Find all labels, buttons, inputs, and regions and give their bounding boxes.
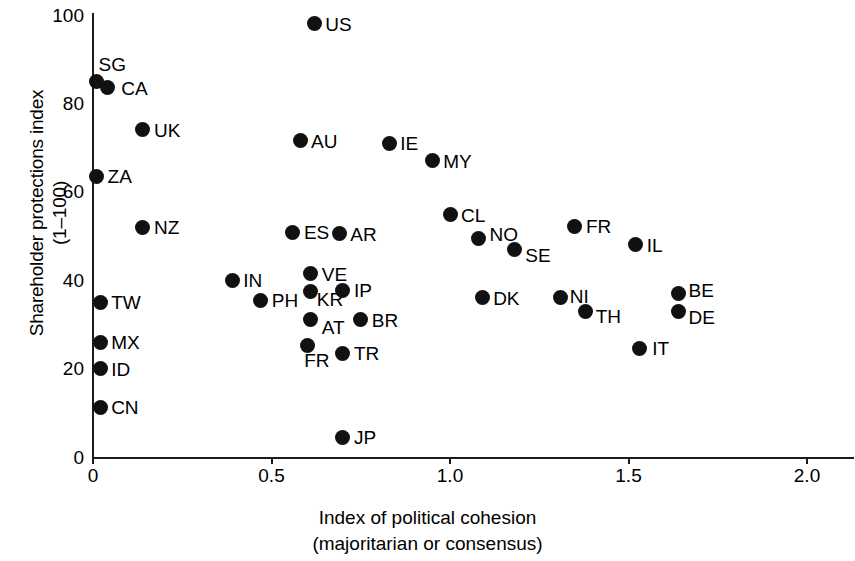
data-point-CL (443, 207, 458, 222)
data-point-TW (93, 295, 108, 310)
data-point-label-NZ: NZ (154, 218, 179, 237)
data-point-CN (93, 400, 108, 415)
data-point-label-FR: FR (586, 217, 611, 236)
y-tick-60: 60 (0, 182, 84, 201)
data-point-ZA (89, 169, 104, 184)
data-point-label-IL: IL (647, 236, 663, 255)
x-tick-mark (271, 457, 273, 464)
data-point-MY (425, 153, 440, 168)
data-point-label-FR: FR (304, 351, 329, 370)
data-point-BE (671, 286, 686, 301)
data-point-label-ZA: ZA (108, 167, 132, 186)
data-point-UK (135, 122, 150, 137)
x-tick-label-0: 0 (63, 466, 123, 486)
data-point-label-CN: CN (111, 398, 138, 417)
y-tick-40: 40 (0, 271, 84, 290)
data-point-label-SE: SE (525, 246, 550, 265)
x-tick-mark (628, 457, 630, 464)
data-point-DK (475, 290, 490, 305)
data-point-IL (628, 237, 643, 252)
x-axis-title-line-2: (majoritarian or consensus) (0, 531, 855, 557)
x-tick-mark (92, 457, 94, 464)
data-point-label-IE: IE (400, 134, 418, 153)
x-tick-label-1.5: 1.5 (599, 466, 659, 486)
data-point-CA (100, 80, 115, 95)
x-tick-mark (449, 457, 451, 464)
x-tick-mark (806, 457, 808, 464)
data-point-label-AR: AR (350, 225, 376, 244)
data-point-FR (567, 219, 582, 234)
y-tick-100: 100 (0, 6, 84, 25)
data-point-label-ES: ES (304, 223, 329, 242)
x-axis-line (92, 457, 854, 459)
data-point-ES (285, 225, 300, 240)
data-point-NO (471, 231, 486, 246)
data-point-AU (293, 133, 308, 148)
data-point-BR (353, 312, 368, 327)
data-point-AT (303, 312, 318, 327)
data-point-label-DK: DK (493, 289, 519, 308)
data-point-label-IP: IP (354, 281, 372, 300)
y-tick-label: 80 (28, 94, 84, 113)
data-point-label-JP: JP (354, 428, 376, 447)
data-point-IP (335, 283, 350, 298)
data-point-TR (335, 346, 350, 361)
data-point-JP (335, 430, 350, 445)
data-point-VE (303, 266, 318, 281)
data-point-label-MY: MY (443, 152, 472, 171)
y-tick-label: 60 (28, 182, 84, 201)
data-point-label-TH: TH (596, 307, 621, 326)
data-point-US (307, 16, 322, 31)
data-point-label-TR: TR (354, 344, 379, 363)
data-point-IT (632, 341, 647, 356)
data-point-label-PH: PH (272, 291, 298, 310)
data-point-label-CL: CL (461, 206, 485, 225)
y-tick-label: 20 (28, 359, 84, 378)
data-point-label-AU: AU (311, 132, 337, 151)
data-point-IN (225, 273, 240, 288)
data-point-label-US: US (325, 15, 351, 34)
y-tick-20: 20 (0, 359, 84, 378)
data-point-label-UK: UK (154, 121, 180, 140)
data-point-label-AT: AT (322, 318, 345, 337)
data-point-TH (578, 304, 593, 319)
x-tick-label-0.5: 0.5 (242, 466, 302, 486)
data-point-ID (93, 361, 108, 376)
data-point-SE (507, 242, 522, 257)
data-point-PH (253, 293, 268, 308)
data-point-label-IN: IN (243, 271, 262, 290)
data-point-label-IT: IT (652, 339, 669, 358)
data-point-MX (93, 335, 108, 350)
y-tick-80: 80 (0, 94, 84, 113)
y-tick-label: 0 (28, 448, 84, 467)
data-point-label-TW: TW (111, 293, 141, 312)
data-point-label-DE: DE (688, 308, 714, 327)
data-point-DE (671, 304, 686, 319)
x-axis-title: Index of political cohesion (majoritaria… (0, 505, 855, 557)
data-point-label-SG: SG (99, 55, 126, 74)
x-tick-label-2.0: 2.0 (777, 466, 837, 486)
scatter-plot-figure: Shareholder protections index (1–100) 02… (0, 0, 855, 561)
data-point-IE (382, 136, 397, 151)
data-point-label-CA: CA (121, 79, 147, 98)
y-tick-label: 100 (28, 6, 84, 25)
y-tick-label: 40 (28, 271, 84, 290)
data-point-label-BE: BE (688, 281, 713, 300)
data-point-label-BR: BR (372, 311, 398, 330)
data-point-label-MX: MX (111, 333, 140, 352)
data-point-label-VE: VE (322, 265, 347, 284)
data-point-AR (332, 226, 347, 241)
data-point-NZ (135, 220, 150, 235)
data-point-label-ID: ID (111, 360, 130, 379)
data-point-NI (553, 290, 568, 305)
x-axis-title-line-1: Index of political cohesion (0, 505, 855, 531)
y-tick-0: 0 (0, 448, 84, 467)
x-tick-label-1.0: 1.0 (420, 466, 480, 486)
